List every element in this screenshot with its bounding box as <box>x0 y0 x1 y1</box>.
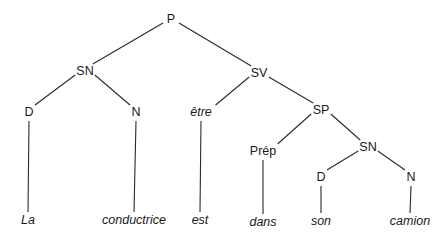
tree-leaf-la: La <box>21 213 35 227</box>
tree-leaf-conductrice: conductrice <box>102 213 166 227</box>
tree-edge-n2-camion <box>410 186 411 213</box>
tree-nodes: PSNSVDNêtreSPPrépSNDNLaconductriceestdan… <box>21 12 430 229</box>
tree-edge-sp-prep <box>278 114 312 144</box>
tree-edge-sn2-n2 <box>378 151 405 170</box>
tree-edge-sn1-n1 <box>95 75 130 105</box>
tree-edge-etre-est <box>200 121 201 212</box>
tree-leaf-est: est <box>192 213 209 227</box>
tree-edge-sp-sn2 <box>331 114 360 140</box>
tree-leaf-etre: être <box>190 105 212 119</box>
tree-node-n2: N <box>406 170 415 184</box>
tree-node-d2: D <box>316 170 325 184</box>
tree-node-sp: SP <box>313 103 330 117</box>
tree-edge-p-sv <box>179 23 251 66</box>
syntax-tree-diagram: PSNSVDNêtreSPPrépSNDNLaconductriceestdan… <box>0 0 445 242</box>
tree-node-d1: D <box>24 105 33 119</box>
tree-node-sv: SV <box>251 66 268 80</box>
tree-edge-sv-sp <box>269 77 313 103</box>
tree-edge-sv-etre <box>216 77 250 105</box>
tree-node-prep: Prép <box>250 144 276 158</box>
tree-leaf-camion: camion <box>390 214 430 228</box>
tree-edge-sn1-d1 <box>35 75 75 105</box>
tree-node-p: P <box>167 12 175 26</box>
tree-edge-n1-conductrice <box>134 121 136 212</box>
tree-leaf-dans: dans <box>249 215 276 229</box>
tree-edge-p-sn1 <box>93 23 163 64</box>
tree-leaf-son: son <box>311 214 331 228</box>
tree-edges <box>28 23 411 214</box>
tree-edge-d1-la <box>28 121 29 212</box>
tree-node-sn1: SN <box>76 64 93 78</box>
tree-node-n1: N <box>131 105 140 119</box>
tree-node-sn2: SN <box>359 140 376 154</box>
tree-edge-sn2-d2 <box>327 151 358 170</box>
